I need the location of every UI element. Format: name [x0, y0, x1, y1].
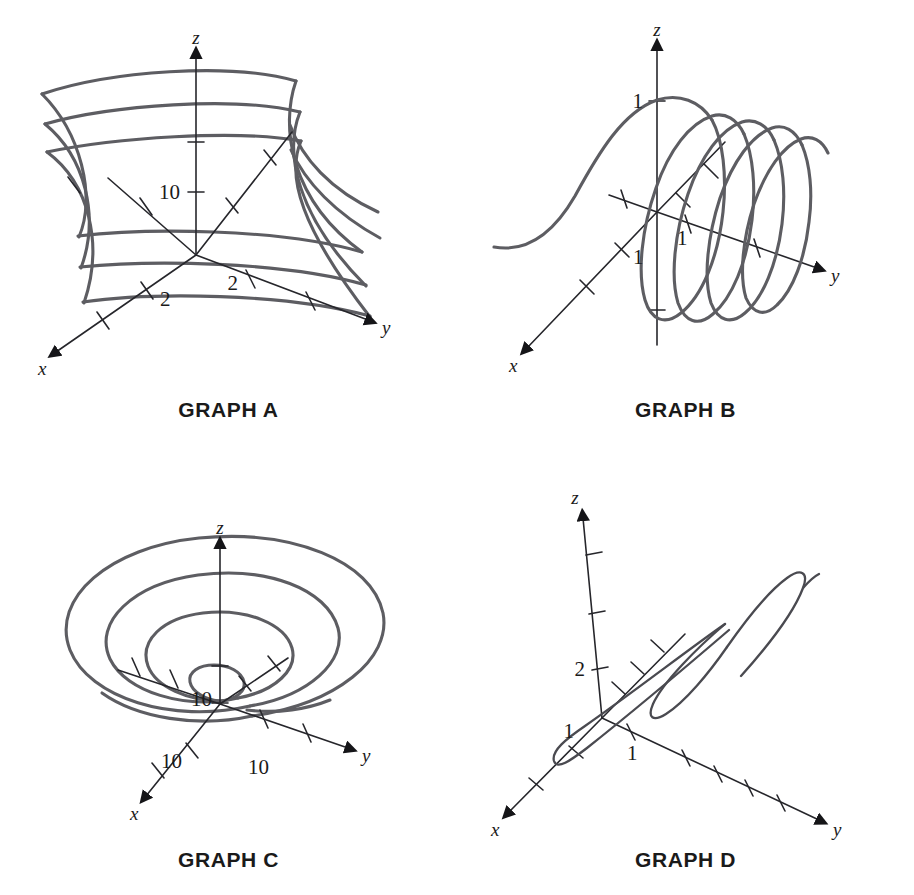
x-tick-d-neg-2	[631, 662, 644, 674]
graph-a-y-tick-label: 2	[228, 271, 239, 295]
graph-a-surface-mesh	[42, 71, 380, 317]
surface-curve-top-3	[47, 135, 301, 152]
graph-c-y-axis-label: y	[360, 745, 371, 766]
graph-b-y-axis-label: y	[829, 265, 840, 286]
surface-curve-top-2	[45, 104, 300, 124]
graph-d-z-axis-label: z	[570, 487, 579, 508]
graph-a-y-axis-label: y	[380, 317, 391, 338]
y-axis-d	[602, 718, 819, 820]
graph-panel-a: z y x 10 2 2 GRAPH A	[0, 0, 457, 447]
graph-c-z-tick-label: 10	[191, 687, 212, 711]
graph-b-z-axis-label: z	[652, 19, 661, 40]
x-tick-a-neg-1	[226, 198, 238, 213]
graph-b-axes	[527, 48, 817, 348]
y-axis-a	[196, 255, 368, 320]
graph-d-y-axis-label: y	[831, 819, 842, 840]
z-axis-d	[583, 518, 602, 718]
figure-page: z y x 10 2 2 GRAPH A	[0, 0, 914, 895]
x-axis-d	[509, 718, 602, 812]
surface-curve-bottom-3	[83, 296, 370, 316]
graph-b-caption: GRAPH B	[457, 398, 914, 422]
surface-curve-bottom-2	[80, 263, 366, 285]
x-tick-c-neg-2	[268, 656, 280, 671]
graph-c-conical-spiral	[66, 536, 384, 721]
graph-b-x-tick-label: 1	[633, 245, 644, 269]
surface-rib-left-3	[47, 152, 93, 303]
graph-a-z-axis-label: z	[191, 27, 200, 48]
graph-b-x-axis-label: x	[508, 355, 518, 376]
y-axis-a-negative	[108, 178, 196, 255]
graph-panel-d: z y x 2 1 1 GRAPH D	[457, 448, 914, 895]
surface-rib-right-3	[296, 141, 370, 317]
graph-a-x-tick-label: 2	[160, 287, 171, 311]
y-tick-d-1	[627, 724, 635, 740]
graph-d-caption: GRAPH D	[457, 848, 914, 872]
graph-d-x-tick-label: 1	[564, 719, 575, 743]
graph-d-plot: z y x 2 1 1	[457, 448, 914, 848]
x-tick-c-10	[186, 743, 198, 758]
graph-d-x-axis-label: x	[490, 819, 500, 840]
surface-curve-top-1	[42, 71, 296, 94]
x-tick-d-neg-1	[612, 682, 625, 694]
graph-a-plot: z y x 10 2 2	[0, 0, 457, 400]
graph-a-z-tick-label: 10	[159, 180, 180, 204]
x-axis-b-negative	[657, 142, 725, 212]
graph-b-z-tick-label: 1	[633, 89, 644, 113]
helix-turn-2	[674, 121, 774, 321]
y-tick-a-neg-1	[140, 198, 152, 215]
x-tick-b-neg-2	[704, 164, 718, 178]
graph-b-helix	[494, 97, 828, 321]
spiral-loop-3	[106, 573, 339, 706]
y-tick-a-2	[246, 270, 255, 288]
graph-b-plot: z y x 1 1 1	[457, 0, 914, 400]
z-tick-d-2	[592, 667, 608, 670]
helix-turn-4	[743, 138, 828, 313]
graph-c-plot: z y x 10 10 10	[0, 448, 457, 848]
x-tick-a-4	[97, 312, 109, 329]
graph-panel-c: z y x 10 10 10 GRAPH C	[0, 448, 457, 895]
loop-large	[727, 573, 805, 676]
y-tick-c-neg-2	[132, 658, 140, 676]
graph-d-y-tick-label: 1	[627, 741, 638, 765]
graph-c-x-axis-label: x	[129, 803, 139, 824]
graph-c-caption: GRAPH C	[0, 848, 457, 872]
x-tick-b-2	[580, 280, 594, 294]
graph-d-z-tick-label: 2	[575, 657, 586, 681]
graph-a-axes	[56, 56, 368, 352]
x-tick-a-neg-2	[264, 150, 276, 165]
graph-c-z-axis-label: z	[215, 517, 224, 538]
graph-c-y-tick-label: 10	[248, 755, 269, 779]
x-axis-a	[56, 255, 196, 352]
graph-panel-b: z y x 1 1 1 GRAPH B	[457, 0, 914, 447]
graph-a-x-axis-label: x	[37, 358, 47, 379]
y-tick-a-4	[306, 292, 315, 310]
z-tick-d-4	[586, 552, 602, 555]
x-tick-d-neg-3	[651, 640, 664, 652]
graph-c-x-tick-label: 10	[161, 749, 182, 773]
x-axis-c	[146, 704, 220, 796]
graph-b-y-tick-label: 1	[677, 226, 688, 250]
x-tick-b-1	[615, 243, 629, 257]
graph-d-loops	[554, 573, 819, 765]
graph-a-caption: GRAPH A	[0, 398, 457, 422]
y-tick-c-neg-1	[170, 670, 178, 688]
